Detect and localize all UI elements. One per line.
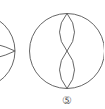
diagram-canvas (0, 0, 104, 109)
upper-lens-right-arc (67, 14, 75, 52)
lens-lower-arc (0, 51, 15, 60)
lens-upper-arc (0, 42, 15, 51)
upper-lens-left-arc (60, 14, 68, 52)
figure-label: ⑤ (60, 94, 74, 108)
lower-lens-right-arc (67, 51, 75, 89)
lower-lens-left-arc (60, 51, 68, 89)
figure-5 (30, 14, 105, 89)
figure-4-partial (0, 14, 15, 88)
outer-circle (0, 14, 15, 88)
